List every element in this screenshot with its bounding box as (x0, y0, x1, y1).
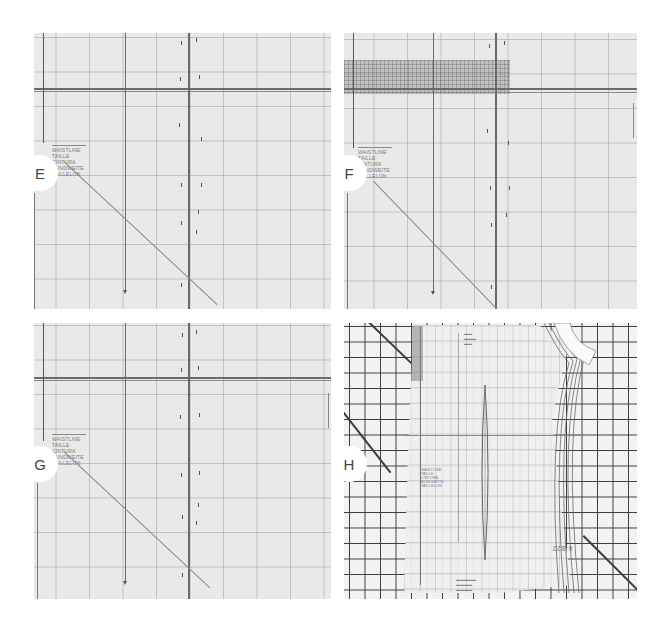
panel-h: ▬▬▬▬▬▬▬ WAISTLINE TAILLE CINTURA BUNDWEI… (344, 323, 637, 599)
notch-mark (182, 515, 183, 519)
waistline-horizontal (34, 88, 331, 90)
grainline-vertical (125, 323, 126, 583)
pattern-info-bottom: ▬▬▬▬▬▬▬▬▬▬▬▬▬ (456, 577, 476, 592)
notch-mark (182, 333, 183, 337)
right-edge-mark (633, 103, 634, 138)
panel-e: WAISTLINE TAILLE CINTURA BUNDWEITE TAILL… (34, 33, 331, 309)
waistline-horizontal (34, 377, 331, 379)
notch-mark (491, 285, 492, 289)
notch-mark (181, 221, 182, 225)
left-edge-line (43, 33, 44, 143)
armhole-flap (544, 323, 604, 373)
notch-mark (199, 413, 200, 417)
notch-mark (198, 503, 199, 507)
notch-mark (196, 330, 197, 334)
notch-mark (196, 521, 197, 525)
notch-mark (199, 75, 200, 79)
panel-g: WAISTLINE TAILLE CINTURA BUNDWEITE TAILL… (34, 323, 331, 599)
piece-number: 6-822 (552, 545, 572, 552)
notch-mark (181, 473, 182, 477)
grainline-arrow-icon (123, 581, 127, 585)
panel-badge-g: G (22, 446, 58, 482)
waistline-label: WAISTLINE TAILLE CINTURA BUNDWEITE TAILL… (421, 468, 444, 488)
dart-shape (477, 385, 493, 560)
notch-mark (489, 44, 490, 48)
notch-mark (491, 223, 492, 227)
left-edge-line-lower (37, 483, 38, 599)
center-vertical (188, 323, 190, 599)
panel-badge-f: F (331, 155, 367, 191)
notch-mark (198, 210, 199, 214)
center-vertical (188, 33, 190, 309)
notch-mark (198, 366, 199, 370)
notch-mark (201, 183, 202, 187)
badge-label: H (344, 456, 355, 473)
badge-label: F (344, 165, 353, 182)
pattern-info-top: ▬▬▬▬▬▬▬ (464, 331, 476, 346)
notch-mark (182, 573, 183, 577)
center-front-line (420, 327, 421, 585)
waistline-horizontal (344, 88, 637, 90)
notch-mark (490, 186, 491, 190)
notch-mark (199, 471, 200, 475)
notch-mark (181, 368, 182, 372)
left-edge-line (43, 323, 44, 441)
right-edge-mark (328, 393, 329, 428)
label-line: TAILLELIJN (421, 484, 444, 488)
waistline-horizontal-secondary (34, 91, 331, 92)
notch-mark (508, 141, 509, 145)
notch-mark (196, 230, 197, 234)
grainline-arrow-icon (123, 290, 127, 294)
notch-mark (506, 213, 507, 217)
notch-mark (181, 283, 182, 287)
notch-mark (509, 186, 510, 190)
notch-mark (180, 415, 181, 419)
badge-label: E (35, 165, 45, 182)
panel-badge-h: H (331, 446, 367, 482)
grainline-vertical (125, 33, 126, 293)
waistline-horizontal-secondary (344, 92, 637, 93)
notch-mark (201, 137, 202, 141)
panel-f: WAISTLINE TAILLE CINTURA BUNDWEITE TAILL… (344, 33, 637, 309)
waistline-horizontal-secondary (34, 380, 331, 381)
notch-mark (179, 123, 180, 127)
badge-label: G (34, 456, 46, 473)
grainline-arrow-icon (431, 291, 435, 295)
seam-strip (411, 326, 423, 381)
left-edge-line-lower (347, 193, 348, 309)
notch-mark (181, 41, 182, 45)
notch-mark (504, 41, 505, 45)
notch-mark (180, 77, 181, 81)
grainline (458, 333, 459, 543)
left-edge-line (353, 33, 354, 148)
notch-mark (487, 129, 488, 133)
notch-mark (181, 183, 182, 187)
panel-badge-e: E (22, 155, 58, 191)
notch-mark (196, 38, 197, 42)
center-vertical (495, 33, 497, 309)
grainline-vertical (433, 33, 434, 293)
left-edge-line-lower (34, 193, 35, 309)
